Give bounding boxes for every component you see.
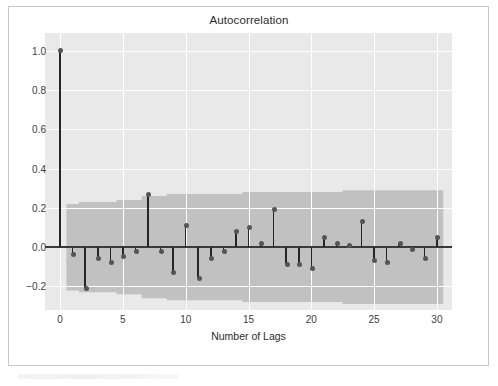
acf-marker — [347, 243, 352, 248]
acf-marker — [84, 286, 89, 291]
acf-stem — [147, 194, 149, 247]
plot-panel — [45, 33, 452, 310]
acf-stem — [59, 51, 61, 247]
acf-marker — [310, 266, 315, 271]
acf-marker — [159, 249, 164, 254]
y-tick-label: −0.2 — [6, 281, 46, 292]
grid-line-vertical — [374, 33, 375, 310]
acf-stem — [197, 247, 199, 278]
x-tick-label: 30 — [431, 314, 442, 325]
grid-line-horizontal — [45, 208, 452, 209]
acf-marker — [360, 219, 365, 224]
acf-marker — [197, 276, 202, 281]
acf-stem — [84, 247, 86, 288]
acf-stem — [248, 227, 250, 247]
x-axis-label: Number of Lags — [45, 330, 452, 342]
grid-line-horizontal — [45, 286, 452, 287]
x-tick-label: 20 — [306, 314, 317, 325]
x-tick-label: 0 — [57, 314, 63, 325]
grid-line-vertical — [186, 33, 187, 310]
y-tick-label: 0.8 — [6, 84, 46, 95]
chart-title: Autocorrelation — [0, 14, 498, 26]
acf-marker — [410, 247, 415, 252]
acf-stem — [185, 226, 187, 248]
y-tick-label: 0.0 — [6, 242, 46, 253]
acf-stem — [172, 247, 174, 273]
acf-marker — [398, 241, 403, 246]
acf-marker — [184, 223, 189, 228]
y-tick-label: 0.6 — [6, 124, 46, 135]
grid-line-horizontal — [45, 129, 452, 130]
acf-marker — [335, 241, 340, 246]
x-tick-label: 25 — [369, 314, 380, 325]
autocorrelation-figure: Autocorrelation 1.00.80.60.40.20.0−0.2 0… — [0, 0, 498, 386]
acf-marker — [285, 262, 290, 267]
x-tick-label: 5 — [120, 314, 126, 325]
x-tick-label: 15 — [243, 314, 254, 325]
y-tick-label: 0.2 — [6, 202, 46, 213]
grid-line-vertical — [249, 33, 250, 310]
acf-marker — [322, 235, 327, 240]
page-artifact-strip — [18, 374, 178, 379]
acf-marker — [222, 249, 227, 254]
x-tick-label: 10 — [180, 314, 191, 325]
acf-marker — [247, 225, 252, 230]
acf-marker — [134, 249, 139, 254]
grid-line-vertical — [123, 33, 124, 310]
y-tick-label: 0.4 — [6, 163, 46, 174]
grid-line-vertical — [437, 33, 438, 310]
acf-stem — [361, 222, 363, 248]
grid-line-horizontal — [45, 169, 452, 170]
acf-stem — [273, 210, 275, 247]
grid-line-horizontal — [45, 90, 452, 91]
grid-line-horizontal — [45, 51, 452, 52]
acf-marker — [146, 192, 151, 197]
y-tick-label: 1.0 — [6, 45, 46, 56]
